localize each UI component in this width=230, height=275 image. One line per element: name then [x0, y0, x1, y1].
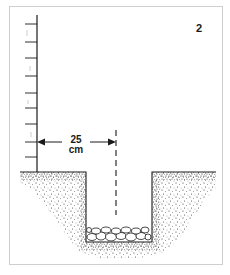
soil-ground — [20, 172, 216, 258]
arrowhead-left-icon — [37, 139, 45, 146]
brick-wall — [25, 15, 37, 172]
dimension-label: 25 cm — [62, 135, 90, 155]
gravel-base — [87, 227, 152, 241]
trench-diagram — [0, 0, 230, 275]
dimension-unit: cm — [62, 145, 90, 155]
arrowhead-right-icon — [108, 139, 116, 146]
figure-number: 2 — [196, 22, 202, 34]
